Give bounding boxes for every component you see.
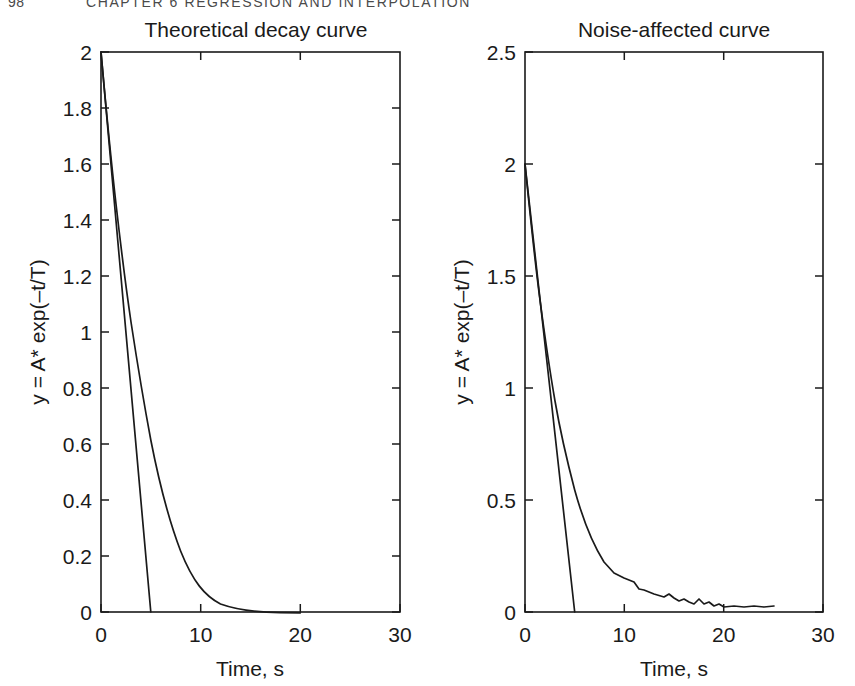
y-tick-marks bbox=[525, 52, 823, 612]
y-tick-label: 1.5 bbox=[487, 265, 516, 288]
x-tick-label: 20 bbox=[712, 623, 735, 646]
x-tick-label: 30 bbox=[388, 623, 411, 646]
y-tick-marks bbox=[101, 52, 400, 612]
y-tick-label: 1.2 bbox=[63, 265, 92, 288]
noise-affected-plot: Noise-affected curve bbox=[425, 0, 855, 686]
chart-panel-theoretical-decay: Theoretical decay curve bbox=[0, 0, 430, 686]
y-tick-label: 0.8 bbox=[63, 377, 92, 400]
y-tick-label: 2 bbox=[80, 41, 92, 64]
plot-frame bbox=[525, 52, 823, 612]
x-tick-label: 20 bbox=[289, 623, 312, 646]
y-tick-label: 1.8 bbox=[63, 97, 92, 120]
chart-panel-noise-affected: Noise-affected curve bbox=[425, 0, 855, 686]
x-tick-label: 10 bbox=[189, 623, 212, 646]
chart-title: Noise-affected curve bbox=[578, 18, 770, 41]
y-tick-labels: 0 0.5 1 1.5 2 2.5 bbox=[487, 41, 516, 624]
y-tick-label: 2.5 bbox=[487, 41, 516, 64]
x-tick-marks bbox=[525, 52, 823, 612]
y-tick-label: 1 bbox=[504, 377, 516, 400]
y-tick-label: 1.6 bbox=[63, 153, 92, 176]
x-tick-label: 0 bbox=[519, 623, 531, 646]
y-tick-label: 0.5 bbox=[487, 489, 516, 512]
x-axis-title: Time, s bbox=[640, 657, 708, 680]
x-tick-labels: 0 10 20 30 bbox=[519, 623, 835, 646]
y-tick-label: 0 bbox=[504, 601, 516, 624]
theoretical-decay-plot: Theoretical decay curve bbox=[0, 0, 430, 686]
plot-frame bbox=[101, 52, 400, 612]
y-tick-label: 1.4 bbox=[63, 209, 93, 232]
y-tick-label: 0 bbox=[80, 601, 92, 624]
x-axis-title: Time, s bbox=[216, 657, 284, 680]
y-tick-labels: 0 0.2 0.4 0.6 0.8 1 1.2 1.4 1.6 1.8 2 bbox=[63, 41, 93, 624]
x-tick-label: 0 bbox=[95, 623, 107, 646]
y-axis-title: y = A* exp(–t/T) bbox=[450, 259, 473, 404]
noisy-decay-curve-series bbox=[525, 164, 774, 607]
decay-curve-series bbox=[101, 52, 300, 613]
x-tick-marks bbox=[101, 52, 400, 612]
y-axis-title: y = A* exp(–t/T) bbox=[26, 259, 49, 404]
y-tick-label: 0.4 bbox=[63, 489, 93, 512]
chart-title: Theoretical decay curve bbox=[145, 18, 368, 41]
x-tick-labels: 0 10 20 30 bbox=[95, 623, 412, 646]
x-tick-label: 30 bbox=[811, 623, 834, 646]
y-tick-label: 0.6 bbox=[63, 433, 92, 456]
y-tick-label: 0.2 bbox=[63, 545, 92, 568]
y-tick-label: 2 bbox=[504, 153, 516, 176]
y-tick-label: 1 bbox=[80, 321, 92, 344]
x-tick-label: 10 bbox=[613, 623, 636, 646]
figure-two-decay-curves: Theoretical decay curve bbox=[0, 0, 855, 686]
